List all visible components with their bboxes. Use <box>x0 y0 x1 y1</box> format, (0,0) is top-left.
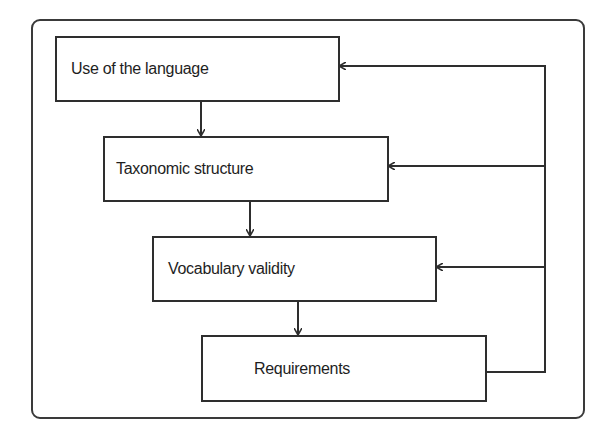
feedback-line-main <box>340 66 545 372</box>
box-use-of-the-language: Use of the language <box>55 36 340 102</box>
box-taxonomic-structure: Taxonomic structure <box>103 136 389 202</box>
box-label: Vocabulary validity <box>168 260 295 278</box>
box-label: Taxonomic structure <box>116 160 253 178</box>
box-requirements: Requirements <box>201 335 487 402</box>
box-vocabulary-validity: Vocabulary validity <box>152 236 437 302</box>
box-label: Requirements <box>254 360 350 378</box>
box-label: Use of the language <box>71 60 209 78</box>
